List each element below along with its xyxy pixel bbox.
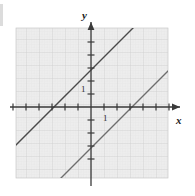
y-axis-arrowhead: [88, 22, 95, 30]
x-axis-tick-label-1: 1: [103, 114, 108, 123]
coordinate-plane-svg: [0, 0, 195, 196]
x-axis-label: x: [176, 115, 182, 126]
x-axis-arrowhead: [172, 104, 180, 111]
graph-figure: y x 1 1: [0, 0, 195, 196]
grid-area: [16, 28, 168, 178]
y-axis-label: y: [82, 10, 87, 21]
y-axis-tick-label-1: 1: [81, 85, 86, 94]
